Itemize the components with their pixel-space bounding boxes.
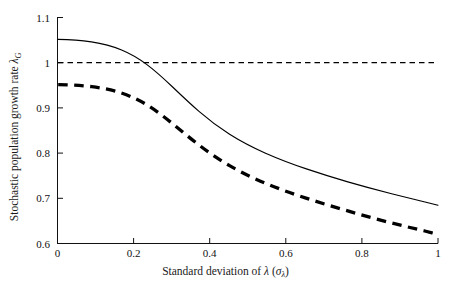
plot-canvas: [0, 0, 451, 288]
x-axis-title-close-paren: ): [285, 265, 289, 277]
x-tick-label-0.8: 0.8: [355, 248, 369, 259]
x-tick-label-0.6: 0.6: [279, 248, 293, 259]
x-axis-ticks: [58, 238, 439, 244]
x-axis-title-open-paren: (: [269, 265, 276, 277]
y-axis-title: Stochastic population growth rate λG: [9, 17, 23, 257]
x-axis-title-lead: Standard deviation of: [162, 265, 264, 277]
x-tick-label-0.4: 0.4: [203, 248, 217, 259]
upper-solid-curve: [58, 39, 438, 205]
x-axis-title: Standard deviation of λ (σλ): [0, 266, 451, 280]
x-tick-label-0: 0: [55, 248, 61, 259]
y-axis-title-lambda: λ: [8, 58, 20, 63]
chart-figure: 1.1 1 0.9 0.8 0.7 0.6 0 0.2 0.4 0.6 0.8 …: [0, 0, 451, 288]
x-tick-label-0.2: 0.2: [127, 248, 141, 259]
y-axis-title-lead: Stochastic population growth rate: [8, 63, 20, 221]
lower-dashed-curve: [58, 85, 438, 235]
x-tick-label-1: 1: [435, 248, 441, 259]
y-axis-title-lambda-subscript: G: [14, 52, 23, 58]
y-axis-ticks: [58, 18, 64, 244]
